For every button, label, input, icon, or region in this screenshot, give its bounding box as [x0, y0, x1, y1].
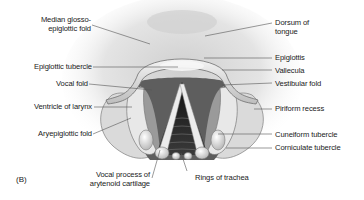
- label-corniculate-tubercle: Corniculate tubercle: [275, 143, 341, 152]
- label-line: Epiglottic tubercle: [4, 62, 92, 71]
- label-ventricle-of-larynx: Ventricle of larynx: [2, 102, 92, 111]
- label-epiglottic-tubercle: Epiglottic tubercle: [4, 62, 92, 71]
- label-aryepiglottic-fold: Aryepiglottic fold: [4, 129, 92, 138]
- label-cuneiform-tubercle: Cuneiform tubercle: [275, 130, 337, 139]
- label-rings-of-trachea: Rings of trachea: [195, 173, 249, 182]
- label-line: Rings of trachea: [195, 173, 249, 182]
- label-vocal-process-of-arytenoid-cartilage: Vocal process of arytenoid cartilage: [70, 170, 150, 188]
- label-line: Cuneiform tubercle: [275, 130, 337, 139]
- label-line: Vocal fold: [8, 79, 88, 88]
- label-line: tongue: [275, 27, 309, 36]
- label-line: Corniculate tubercle: [275, 143, 341, 152]
- label-vallecula: Vallecula: [275, 66, 304, 75]
- label-line: arytenoid cartilage: [70, 179, 150, 188]
- label-line: Median glosso-: [8, 15, 91, 24]
- larynx-diagram: Median glosso- epiglottic fold Epiglotti…: [0, 0, 364, 200]
- label-piriform-recess: Piriform recess: [275, 104, 324, 113]
- panel-label: (B): [16, 175, 27, 184]
- label-median-glosso-epiglottic-fold: Median glosso- epiglottic fold: [8, 15, 91, 33]
- label-line: Ventricle of larynx: [2, 102, 92, 111]
- label-epiglottis: Epiglottis: [275, 53, 305, 62]
- label-line: Vocal process of: [70, 170, 150, 179]
- label-line: Vestibular fold: [275, 79, 321, 88]
- label-vestibular-fold: Vestibular fold: [275, 79, 321, 88]
- label-line: Vallecula: [275, 66, 304, 75]
- label-vocal-fold: Vocal fold: [8, 79, 88, 88]
- label-dorsum-of-tongue: Dorsum of tongue: [275, 18, 309, 36]
- label-line: Piriform recess: [275, 104, 324, 113]
- label-line: Aryepiglottic fold: [4, 129, 92, 138]
- label-line: Dorsum of: [275, 18, 309, 27]
- label-line: Epiglottis: [275, 53, 305, 62]
- label-line: epiglottic fold: [8, 24, 91, 33]
